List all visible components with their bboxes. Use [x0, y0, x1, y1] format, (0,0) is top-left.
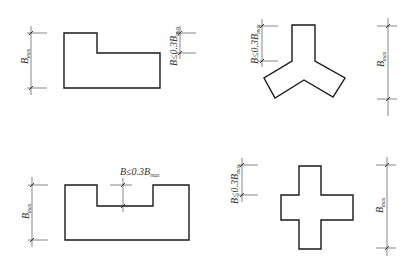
dimension-b-max: Bmax — [375, 18, 397, 116]
y-shape-outline — [264, 25, 345, 98]
dimension-b-limit: B≤0.3Bmax — [168, 26, 196, 66]
dimension-label-b-limit: B≤0.3Bmax — [120, 166, 160, 178]
panel-y-shape: B≤0.3Bmax Bmax — [249, 18, 397, 116]
panel-cross-shape: B≤0.3Bmax Bmax — [229, 157, 396, 256]
dimension-b-limit: B≤0.3Bmax — [249, 19, 278, 67]
dimension-label-b-max: Bmax — [374, 197, 386, 213]
u-shape-outline — [65, 185, 189, 240]
dimension-b-max: Bmax — [19, 26, 47, 95]
panel-l-shape: Bmax B≤0.3Bmax — [19, 26, 196, 95]
l-shape-outline — [64, 33, 160, 88]
dimension-b-max: Bmax — [20, 177, 48, 247]
dimension-label-b-max: Bmax — [20, 203, 32, 219]
dimension-label-b-max: Bmax — [375, 51, 387, 67]
cross-shape-outline — [281, 166, 353, 249]
dimension-label-b-limit: B≤0.3Bmax — [168, 26, 180, 66]
panel-u-shape: Bmax B≤0.3Bmax — [20, 166, 189, 247]
dimension-label-b-limit: B≤0.3Bmax — [249, 24, 261, 64]
plan-irregularity-diagram: Bmax B≤0.3Bmax B≤0.3Bmax — [0, 0, 414, 269]
dimension-label-b-max: Bmax — [19, 48, 31, 64]
dimension-label-b-limit: B≤0.3Bmax — [229, 164, 241, 204]
dimension-b-limit: B≤0.3Bmax — [229, 158, 258, 204]
dimension-b-max: Bmax — [374, 157, 396, 256]
